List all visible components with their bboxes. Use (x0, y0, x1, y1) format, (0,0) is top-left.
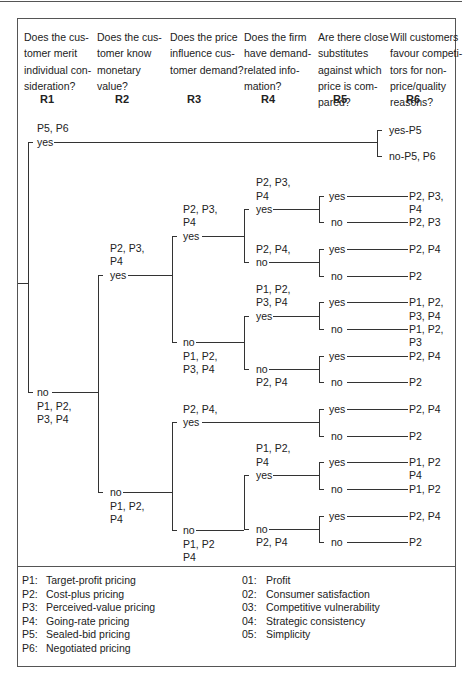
legend-label: Sealed-bid pricing (46, 628, 130, 642)
legend-label: Competitive vulnerability (266, 601, 380, 615)
r4b-no-set: P2, P4 (255, 376, 289, 389)
leaf-result: P2 (408, 376, 423, 389)
legend-label: Going-rate pricing (46, 615, 129, 629)
r1-yes-set: P5, P6 (36, 122, 70, 135)
leaf-result: P2 (408, 430, 423, 443)
legend-key: P4: (22, 615, 46, 629)
r5-answer: yes (328, 510, 346, 523)
legend-label: Consumer satisfaction (266, 588, 370, 602)
r4a-no-label: no (255, 256, 269, 269)
leaf-result: P2, P3 (408, 216, 442, 229)
r5-answer: no (330, 483, 344, 496)
r5-answer: yes (328, 456, 346, 469)
r1-no-label: no (36, 386, 50, 399)
legend-key: P5: (22, 628, 46, 642)
r4c-yes-set: P4 (255, 456, 270, 469)
legend-label: Target-profit pricing (46, 574, 136, 588)
legend-key: 05: (242, 628, 266, 642)
r4b-yes-set: P3, P4 (255, 296, 289, 309)
legend-key: P1: (22, 574, 46, 588)
r4a-yes-label: yes (255, 203, 273, 216)
leaf-result: P4 (408, 203, 423, 216)
r3b-no-set: P4 (182, 551, 197, 564)
legend-item: P3:Perceived-value pricing (22, 601, 155, 615)
leaf-result: P2, P4 (408, 243, 442, 256)
r5-answer: yes (328, 296, 346, 309)
r5-answer: yes (328, 350, 346, 363)
legend-item: 01:Profit (242, 574, 380, 588)
leaf-result: P3 (408, 336, 423, 349)
legend-key: 01: (242, 574, 266, 588)
leaf-result: P1, P2, (408, 296, 444, 309)
r4c-yes-label: yes (255, 469, 273, 482)
r4a-no-set: P2, P4, (255, 243, 291, 256)
r4b-yes-set: P1, P2, (255, 283, 291, 296)
legend-label: Perceived-value pricing (46, 601, 155, 615)
legend-key: 03: (242, 601, 266, 615)
leaf-result: P2, P4 (408, 510, 442, 523)
r6-no-result: no-P5, P6 (388, 150, 437, 163)
r1-no-set: P3, P4 (36, 413, 70, 426)
r3b-yes-set: P2, P4, (182, 403, 218, 416)
leaf-result: P2 (408, 536, 423, 549)
r4c-no-set: P2, P4 (255, 536, 289, 549)
legend-item: P6:Negotiated pricing (22, 642, 155, 656)
r3a-no-set: P3, P4 (182, 363, 216, 376)
r3b-yes-label: yes (182, 416, 200, 429)
legend-key: P6: (22, 642, 46, 656)
r5-answer: no (330, 536, 344, 549)
r3a-yes-set: P4 (182, 216, 197, 229)
legend-item: P4:Going-rate pricing (22, 615, 155, 629)
r3a-yes-label: yes (182, 230, 200, 243)
r4c-yes-set: P1, P2, (255, 442, 291, 455)
leaf-result: P4 (408, 469, 423, 482)
legend-item: 04:Strategic consistency (242, 615, 380, 629)
legend-item: P1:Target-profit pricing (22, 574, 155, 588)
legend-item: 02:Consumer satisfaction (242, 588, 380, 602)
legend-label: Strategic consistency (266, 615, 365, 629)
r5-answer: no (330, 376, 344, 389)
r5-answer: no (330, 270, 344, 283)
leaf-result: P3, P4 (408, 310, 442, 323)
leaf-result: P1, P2 (408, 483, 442, 496)
r5-answer: yes (328, 243, 346, 256)
legend-key: P3: (22, 601, 46, 615)
r2-no-label: no (109, 486, 123, 499)
r4b-no-label: no (255, 363, 269, 376)
legend-key: 04: (242, 615, 266, 629)
r2-yes-set: P4 (109, 255, 124, 268)
legend-key: P2: (22, 588, 46, 602)
r3a-yes-set: P2, P3, (182, 203, 218, 216)
leaf-result: P2, P4 (408, 350, 442, 363)
r5-answer: yes (328, 403, 346, 416)
r4a-yes-set: P2, P3, (255, 176, 291, 189)
r2-yes-label: yes (109, 269, 127, 282)
leaf-result: P1, P2 (408, 456, 442, 469)
r4c-no-label: no (255, 523, 269, 536)
legend-item: 03:Competitive vulnerability (242, 601, 380, 615)
r2-yes-set: P2, P3, (109, 242, 145, 255)
r2-no-set: P1, P2, (109, 500, 145, 513)
r5-answer: no (330, 323, 344, 336)
r5-answer: no (330, 430, 344, 443)
legend-objectives: 01:Profit 02:Consumer satisfaction 03:Co… (242, 574, 380, 642)
r1-yes-label: yes (36, 136, 54, 149)
r5-answer: yes (328, 190, 346, 203)
r4a-yes-set: P4 (255, 190, 270, 203)
r4b-yes-label: yes (255, 310, 273, 323)
legend-label: Negotiated pricing (46, 642, 131, 656)
r5-answer: no (330, 216, 344, 229)
r3a-no-set: P1, P2, (182, 350, 218, 363)
r1-no-set: P1, P2, (36, 400, 72, 413)
r3b-no-label: no (182, 524, 196, 537)
leaf-result: P2 (408, 270, 423, 283)
r3a-no-label: no (182, 336, 196, 349)
legend-item: 05:Simplicity (242, 628, 380, 642)
legend-key: 02: (242, 588, 266, 602)
r6-yes-result: yes-P5 (388, 124, 423, 137)
r2-no-set: P4 (109, 513, 124, 526)
legend-label: Cost-plus pricing (46, 588, 124, 602)
r3b-no-set: P1, P2 (182, 538, 216, 551)
legend-label: Profit (266, 574, 291, 588)
legend-item: P5:Sealed-bid pricing (22, 628, 155, 642)
